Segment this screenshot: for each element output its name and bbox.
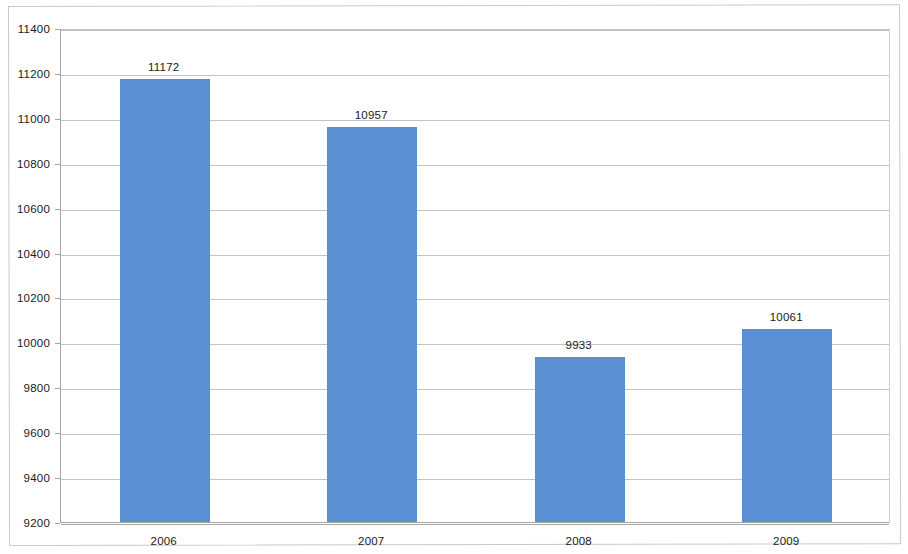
y-axis-tick-label: 10600 [17, 203, 50, 215]
y-axis-tick-label: 11000 [18, 113, 50, 125]
bar[interactable] [327, 127, 417, 522]
gridline [61, 524, 889, 525]
y-axis-tick-label: 9200 [24, 517, 50, 529]
y-axis-tick-label: 10200 [17, 292, 50, 304]
bar-chart: 1140011200110001080010600104001020010000… [0, 0, 908, 554]
y-axis-tick-label: 10800 [17, 158, 50, 170]
y-axis-tick-label: 10000 [17, 337, 50, 349]
x-axis-tick-label: 2007 [358, 535, 384, 547]
y-axis-tick-label: 9800 [24, 382, 50, 394]
bar-value-label: 10061 [770, 311, 803, 323]
y-axis-tick-mark [55, 523, 60, 524]
bar[interactable] [742, 329, 832, 522]
gridline [61, 75, 889, 76]
y-axis-tick-label: 10400 [17, 248, 50, 260]
y-axis-tick-label: 11200 [18, 68, 50, 80]
bar-value-label: 11172 [148, 61, 179, 73]
x-axis-tick-label: 2008 [566, 535, 592, 547]
y-axis-tick-label: 9600 [24, 427, 50, 439]
y-axis: 1140011200110001080010600104001020010000… [0, 0, 60, 554]
y-axis-tick-label: 11400 [18, 23, 50, 35]
bar-value-label: 10957 [355, 109, 388, 121]
y-axis-tick-label: 9400 [24, 472, 50, 484]
bar[interactable] [535, 357, 625, 522]
plot-area [60, 29, 890, 523]
bar[interactable] [120, 79, 210, 522]
x-axis-tick-label: 2009 [773, 535, 799, 547]
gridline [61, 30, 889, 31]
bar-value-label: 9933 [566, 339, 592, 351]
x-axis-tick-label: 2006 [151, 535, 177, 547]
